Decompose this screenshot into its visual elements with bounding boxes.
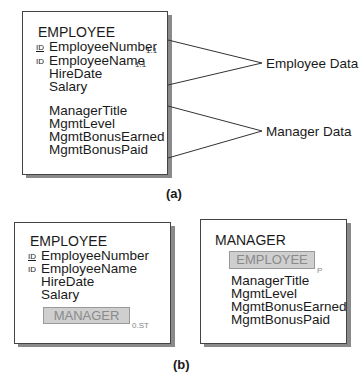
- attribute-salary: Salary: [41, 288, 79, 301]
- id-marker: ID: [28, 253, 36, 261]
- entity-title: EMPLOYEE: [30, 235, 107, 248]
- employee-data-label: Employee Data: [266, 57, 358, 70]
- id-marker: ID: [28, 266, 36, 274]
- manager-data-label: Manager Data: [266, 125, 352, 138]
- parent-marker: P: [317, 267, 322, 275]
- attribute-mgmt-bonus-paid: MgmtBonusPaid: [231, 313, 330, 326]
- caption-b: (b): [173, 357, 190, 372]
- entity-title: MANAGER: [215, 234, 286, 247]
- manager-subtype-object: MANAGER: [43, 307, 130, 324]
- caption-a: (a): [166, 186, 182, 201]
- employee-parent-object: EMPLOYEE: [229, 251, 315, 269]
- subtype-cardinality: 0.ST: [132, 322, 149, 330]
